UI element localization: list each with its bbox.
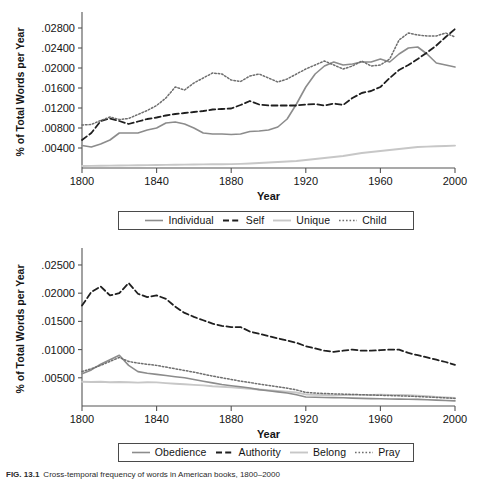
svg-text:.02500: .02500 (41, 259, 75, 271)
svg-text:.01000: .01000 (41, 344, 75, 356)
line-chart-individualism: .00400.00800.01200.01600.02000.02400.028… (0, 0, 482, 200)
svg-text:2000: 2000 (443, 175, 467, 187)
figure-caption-text: Cross-temporal frequency of words in Ame… (43, 470, 280, 479)
series-line-authority (82, 283, 455, 365)
svg-text:1880: 1880 (219, 175, 243, 187)
series-line-pray (82, 357, 455, 398)
svg-text:.01200: .01200 (41, 102, 75, 114)
svg-text:.02000: .02000 (41, 287, 75, 299)
svg-text:1800: 1800 (70, 413, 94, 425)
svg-text:.02400: .02400 (41, 42, 75, 54)
legend-swatch-solid-light-icon (273, 216, 291, 225)
legend-swatch-solid-icon (145, 216, 163, 225)
legend-item-child: Child (339, 215, 386, 226)
legend-label: Unique (296, 215, 330, 226)
legend-label: Obedience (155, 447, 207, 458)
svg-text:.01500: .01500 (41, 315, 75, 327)
legend-top: IndividualSelfUniqueChild (118, 211, 414, 230)
svg-text:1960: 1960 (368, 175, 392, 187)
legend-swatch-solid-icon (132, 448, 150, 457)
svg-text:.01600: .01600 (41, 82, 75, 94)
legend-label: Pray (378, 447, 400, 458)
svg-text:1840: 1840 (144, 413, 168, 425)
legend-swatch-dashed-icon (216, 448, 234, 457)
legend-label: Individual (168, 215, 213, 226)
legend-item-authority: Authority (216, 447, 281, 458)
svg-text:Year: Year (257, 190, 281, 200)
series-line-child (82, 33, 455, 125)
svg-text:.00400: .00400 (41, 142, 75, 154)
svg-text:1840: 1840 (144, 175, 168, 187)
series-line-self (82, 29, 455, 140)
legend-item-self: Self (223, 215, 265, 226)
legend-item-unique: Unique (273, 215, 330, 226)
svg-text:1920: 1920 (294, 413, 318, 425)
legend-label: Authority (239, 447, 281, 458)
svg-text:% of Total Words per Year: % of Total Words per Year (14, 265, 26, 394)
svg-text:1960: 1960 (368, 413, 392, 425)
legend-item-belong: Belong (290, 447, 346, 458)
svg-text:Year: Year (257, 428, 281, 440)
legend-item-pray: Pray (355, 447, 400, 458)
svg-text:2000: 2000 (443, 413, 467, 425)
figure-caption-label: FIG. 13.1 (6, 470, 39, 479)
svg-text:.00800: .00800 (41, 122, 75, 134)
svg-text:1880: 1880 (219, 413, 243, 425)
chart-panel-bottom: .00500.01000.01500.02000.025001800184018… (0, 240, 482, 446)
svg-text:.00500: .00500 (41, 372, 75, 384)
figure-13-1: .00400.00800.01200.01600.02000.02400.028… (0, 0, 482, 481)
legend-swatch-dashed-icon (223, 216, 241, 225)
svg-text:% of Total Words per Year: % of Total Words per Year (14, 28, 26, 157)
svg-text:.02000: .02000 (41, 62, 75, 74)
chart-panel-top: .00400.00800.01200.01600.02000.02400.028… (0, 0, 482, 236)
legend-item-individual: Individual (145, 215, 213, 226)
figure-caption: FIG. 13.1Cross-temporal frequency of wor… (6, 470, 476, 481)
legend-swatch-solid-light-icon (290, 448, 308, 457)
legend-swatch-dotted-icon (355, 448, 373, 457)
legend-swatch-dotted-icon (339, 216, 357, 225)
line-chart-collectivism: .00500.01000.01500.02000.025001800184018… (0, 240, 482, 440)
legend-bottom: ObedienceAuthorityBelongPray (118, 443, 414, 462)
svg-text:.02800: .02800 (41, 22, 75, 34)
svg-text:1800: 1800 (70, 175, 94, 187)
legend-label: Belong (313, 447, 346, 458)
legend-item-obedience: Obedience (132, 447, 207, 458)
legend-label: Child (362, 215, 386, 226)
svg-text:1920: 1920 (294, 175, 318, 187)
series-line-unique (82, 146, 455, 166)
series-line-individual (82, 47, 455, 147)
legend-label: Self (246, 215, 265, 226)
